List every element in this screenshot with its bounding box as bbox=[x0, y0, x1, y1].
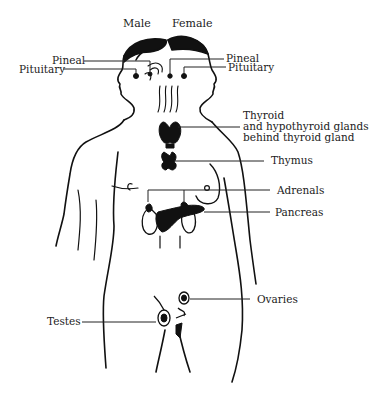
pituitary-right-label: Pituitary bbox=[228, 62, 274, 73]
male-pineal-dot bbox=[148, 72, 152, 76]
fallopian-tube bbox=[176, 308, 186, 318]
male-hair bbox=[124, 39, 166, 62]
female-pineal-dot bbox=[168, 74, 172, 78]
parathyroid bbox=[166, 144, 174, 148]
male-chest-line bbox=[112, 186, 138, 189]
endocrine-diagram: Male Female Pineal Pituitary Pineal Pitu… bbox=[0, 0, 374, 397]
pancreas-label: Pancreas bbox=[275, 207, 323, 218]
pancreas-gland bbox=[156, 205, 204, 232]
pituitary-left-label: Pituitary bbox=[19, 64, 65, 75]
right-torso-side bbox=[224, 178, 243, 382]
testes-label: Testes bbox=[47, 316, 81, 327]
left-torso-side bbox=[103, 152, 118, 368]
nerve-lines bbox=[158, 86, 178, 112]
ovary-dot bbox=[182, 295, 187, 301]
male-brain-swirl bbox=[145, 63, 162, 80]
female-header: Female bbox=[172, 18, 213, 29]
left-inner-leg bbox=[156, 330, 165, 372]
vas-deferens bbox=[154, 296, 164, 310]
female-hair bbox=[168, 36, 208, 54]
male-pituitary-dot bbox=[134, 74, 139, 79]
left-adrenal bbox=[146, 204, 152, 212]
thyroid-label-line-3: behind thyroid gland bbox=[243, 132, 369, 143]
thyroid-label: Thyroid and hypothyroid glands behind th… bbox=[243, 110, 369, 143]
testis-dot bbox=[161, 314, 167, 322]
right-shoulder-arm bbox=[212, 122, 256, 284]
thyroid-gland bbox=[159, 122, 181, 143]
adrenals-label: Adrenals bbox=[277, 185, 324, 196]
ovaries-label: Ovaries bbox=[257, 294, 298, 305]
male-header: Male bbox=[123, 18, 151, 29]
female-breast bbox=[196, 164, 220, 204]
uterus-shape bbox=[176, 323, 182, 338]
thymus-label: Thymus bbox=[271, 155, 313, 166]
female-pituitary-dot bbox=[182, 74, 187, 79]
